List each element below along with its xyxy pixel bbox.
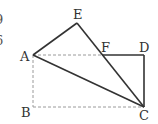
label-B: B bbox=[21, 105, 31, 120]
segment-AE bbox=[33, 23, 77, 55]
segment-AC bbox=[33, 55, 144, 107]
geometry-diagram: E A F D B C 9 6 bbox=[0, 0, 158, 124]
label-E: E bbox=[73, 7, 83, 22]
edge-fragment-2: 6 bbox=[0, 33, 3, 48]
label-C: C bbox=[139, 108, 149, 123]
label-A: A bbox=[19, 49, 30, 64]
segment-EC bbox=[77, 23, 144, 107]
label-D: D bbox=[139, 40, 149, 55]
label-F: F bbox=[101, 40, 110, 55]
edge-fragment-1: 9 bbox=[0, 12, 3, 27]
